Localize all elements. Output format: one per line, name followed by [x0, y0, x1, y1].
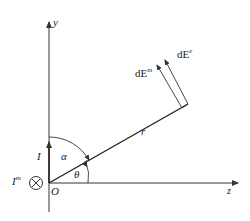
dE-e-sup: e [189, 47, 192, 55]
dE-e-label: dEe [177, 49, 192, 60]
dipole-field-diagram: y z O I Im α θ r dEm dEe [0, 0, 250, 221]
alpha-label: α [61, 151, 67, 162]
z-axis-label: z [227, 186, 231, 196]
current-label: I [37, 151, 41, 162]
diagram-graphics [0, 0, 250, 221]
dE-m-label: dEm [135, 68, 152, 79]
dE-m-sup: m [147, 66, 152, 74]
dE-e-arrow [165, 60, 188, 104]
theta-label: θ [74, 169, 79, 180]
circle-cross-icon [30, 177, 43, 190]
radius-line [49, 104, 188, 183]
origin-label: O [51, 186, 59, 197]
dE-m-arrow [157, 65, 182, 108]
current-m-sup: m [16, 174, 21, 182]
radius-label: r [141, 126, 145, 137]
y-axis-label: y [53, 17, 58, 28]
alpha-arc [49, 137, 89, 160]
current-m-label: Im [12, 176, 21, 187]
dE-m-base: dE [135, 67, 147, 79]
dE-e-base: dE [177, 48, 189, 60]
